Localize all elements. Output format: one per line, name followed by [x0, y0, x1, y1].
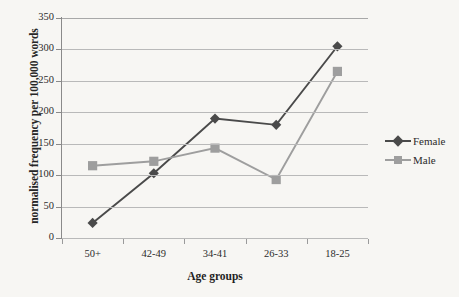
gridline: [62, 144, 368, 145]
y-axis-tick-label: 350: [24, 12, 54, 23]
data-point-male: [88, 161, 97, 170]
y-axis-tickmark: [56, 18, 62, 19]
x-axis-tickmark: [307, 239, 308, 244]
gridline: [62, 112, 368, 113]
line-chart: normalised frequency per 100,000 words 0…: [0, 0, 459, 297]
y-axis-tickmark: [56, 144, 62, 145]
y-axis-tickmark: [56, 49, 62, 50]
x-axis-tickmark: [62, 239, 63, 244]
gridline: [62, 175, 368, 176]
gridline: [62, 238, 368, 239]
legend: FemaleMale: [385, 131, 455, 169]
legend-item-female[interactable]: Female: [385, 131, 455, 150]
y-axis-tickmark: [56, 207, 62, 208]
x-axis-tick-label: 42-49: [123, 249, 184, 260]
x-axis-tick-label: 50+: [62, 249, 123, 260]
legend-label: Male: [411, 154, 436, 166]
x-axis-title: Age groups: [62, 270, 368, 282]
data-point-male: [149, 157, 158, 166]
legend-diamond-marker-icon: [392, 135, 403, 146]
x-axis-tick-label: 34-41: [184, 249, 245, 260]
series-line-male: [93, 71, 338, 179]
y-axis-tickmark: [56, 175, 62, 176]
legend-item-male[interactable]: Male: [385, 150, 455, 169]
y-axis-tick-label: 200: [24, 106, 54, 117]
y-axis-tick-label: 300: [24, 43, 54, 54]
legend-swatch-male: [385, 154, 411, 166]
x-axis-tick-labels: 50+42-4934-4126-3318-25: [62, 249, 368, 265]
legend-label: Female: [411, 135, 445, 147]
x-axis-tick-label: 18-25: [307, 249, 368, 260]
legend-square-marker-icon: [394, 156, 402, 164]
gridline: [62, 207, 368, 208]
data-point-male: [210, 144, 219, 153]
x-axis-tickmark: [123, 239, 124, 244]
gridline: [62, 18, 368, 19]
plot-area: [62, 18, 368, 238]
data-point-male: [333, 67, 342, 76]
y-axis-tickmark: [56, 81, 62, 82]
y-axis-tick-label: 100: [24, 169, 54, 180]
x-axis-tick-label: 26-33: [246, 249, 307, 260]
y-axis-tickmark: [56, 112, 62, 113]
y-axis-tick-label: 150: [24, 138, 54, 149]
x-axis-tickmark: [368, 239, 369, 244]
y-axis-tick-label: 0: [24, 232, 54, 243]
x-axis-tickmark: [184, 239, 185, 244]
gridline: [62, 81, 368, 82]
y-axis-tick-labels: 050100150200250300350: [22, 0, 54, 297]
y-axis-tick-label: 250: [24, 75, 54, 86]
series-container: [62, 18, 368, 238]
gridline: [62, 49, 368, 50]
y-axis-tick-label: 50: [24, 201, 54, 212]
data-point-male: [272, 175, 281, 184]
x-axis-tickmark: [246, 239, 247, 244]
legend-swatch-female: [385, 135, 411, 147]
